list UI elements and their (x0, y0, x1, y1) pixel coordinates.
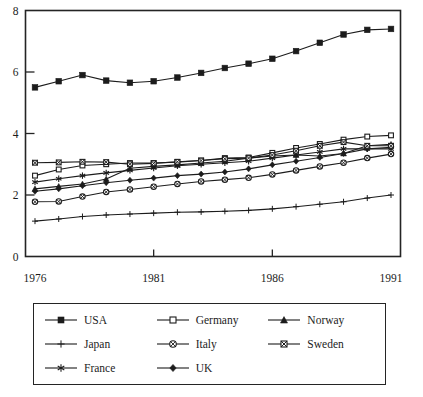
marker-open-square (56, 167, 61, 172)
x-tick-label: 1991 (380, 272, 403, 284)
plot-area: 024681976198119861991 (0, 0, 423, 290)
marker-circle-cross (246, 175, 251, 180)
marker-filled-diamond (222, 169, 227, 175)
marker-square-cross (389, 143, 394, 148)
marker-filled-square (317, 40, 323, 46)
marker-plus (388, 192, 394, 198)
y-tick-label: 4 (13, 128, 19, 140)
marker-plus (364, 195, 370, 201)
marker-circle-cross (270, 172, 275, 177)
y-tick-label: 8 (13, 5, 19, 17)
marker-square-cross (104, 160, 109, 165)
marker-square-cross (175, 159, 180, 164)
legend-marker-asterisk (44, 361, 78, 375)
marker-open-square (33, 173, 38, 178)
x-tick-label: 1976 (23, 272, 46, 284)
legend-label: Japan (84, 338, 110, 350)
marker-filled-square (388, 26, 394, 32)
marker-filled-diamond (246, 166, 251, 172)
marker-plus (127, 211, 133, 217)
legend-label: Norway (307, 314, 344, 326)
series-line (35, 154, 391, 202)
legend-label: France (84, 362, 115, 374)
series-line (35, 29, 391, 87)
marker-square-cross (128, 162, 133, 167)
marker-square-cross (317, 143, 322, 148)
marker-filled-square (293, 48, 299, 54)
legend-item-norway[interactable]: Norway (267, 313, 379, 327)
legend-grid: USAGermanyNorwayJapanItalySwedenFranceUK (34, 304, 385, 384)
marker-plus (269, 206, 275, 212)
legend-label: Germany (196, 314, 239, 326)
marker-filled-square (364, 27, 370, 33)
marker-filled-square (222, 65, 228, 71)
chart-figure: 024681976198119861991 USAGermanyNorwayJa… (0, 0, 423, 397)
marker-filled-square (246, 61, 252, 67)
marker-filled-square (341, 32, 347, 38)
marker-square-cross (246, 156, 251, 161)
legend-item-uk[interactable]: UK (156, 361, 268, 375)
plot-frame (26, 11, 401, 257)
marker-circle-cross (222, 177, 227, 182)
chart-legend: USAGermanyNorwayJapanItalySwedenFranceUK (33, 303, 386, 385)
marker-plus (151, 210, 157, 216)
marker-filled-diamond (175, 173, 180, 179)
legend-label: USA (84, 314, 107, 326)
legend-item-france[interactable]: France (44, 361, 156, 375)
legend-marker-filled-diamond (156, 361, 190, 375)
marker-square-cross (365, 143, 370, 148)
legend-item-germany[interactable]: Germany (156, 313, 268, 327)
marker-filled-square (127, 80, 133, 86)
y-tick-label: 0 (13, 251, 19, 263)
marker-filled-diamond (169, 364, 175, 371)
marker-filled-square (80, 72, 86, 78)
marker-filled-square (58, 317, 64, 323)
marker-open-square (170, 317, 176, 323)
line-chart-svg: 024681976198119861991 (0, 0, 423, 290)
legend-item-sweden[interactable]: Sweden (267, 337, 379, 351)
marker-plus (246, 207, 252, 213)
marker-circle-cross (341, 160, 346, 165)
marker-plus (222, 208, 228, 214)
marker-square-cross (199, 158, 204, 163)
marker-circle-cross (169, 341, 176, 348)
marker-circle-cross (103, 189, 108, 194)
legend-item-italy[interactable]: Italy (156, 337, 268, 351)
marker-square-cross (80, 159, 85, 164)
legend-item-japan[interactable]: Japan (44, 337, 156, 351)
y-tick-label: 6 (13, 66, 19, 78)
marker-square-cross (281, 341, 287, 347)
marker-filled-square (198, 70, 204, 76)
marker-circle-cross (80, 194, 85, 199)
series-uk (32, 144, 393, 194)
marker-filled-diamond (199, 171, 204, 177)
marker-filled-diamond (151, 175, 156, 181)
marker-plus (293, 204, 299, 210)
marker-square-cross (294, 148, 299, 153)
marker-filled-triangle (103, 176, 109, 181)
legend-item-usa[interactable]: USA (44, 313, 156, 327)
marker-filled-square (270, 56, 276, 62)
legend-label: Italy (196, 338, 217, 350)
legend-label: UK (196, 362, 213, 374)
legend-label: Sweden (307, 338, 343, 350)
marker-plus (57, 340, 64, 347)
marker-plus (56, 216, 62, 222)
series-line (35, 195, 391, 221)
legend-marker-open-square (156, 313, 190, 327)
marker-plus (103, 212, 109, 218)
series-japan (32, 192, 394, 224)
marker-plus (79, 214, 85, 220)
marker-circle-cross (56, 199, 61, 204)
marker-plus (174, 209, 180, 215)
x-tick-label: 1981 (142, 272, 165, 284)
legend-marker-plus (44, 337, 78, 351)
marker-circle-cross (32, 199, 37, 204)
marker-square-cross (341, 140, 346, 145)
marker-circle-cross (365, 155, 370, 160)
marker-filled-square (151, 78, 157, 84)
marker-filled-diamond (293, 158, 298, 164)
series-line (35, 135, 391, 175)
marker-square-cross (222, 156, 227, 161)
marker-filled-diamond (127, 177, 132, 183)
